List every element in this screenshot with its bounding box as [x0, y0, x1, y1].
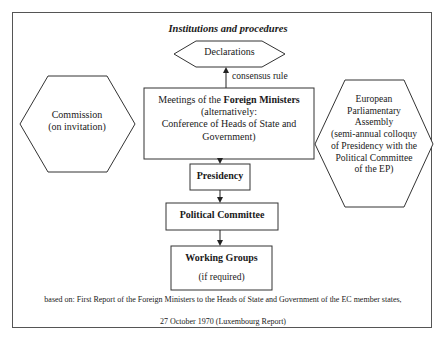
ep-line3: Assembly: [322, 116, 426, 128]
ep-line5: of Presidency with the: [322, 140, 426, 152]
meetings-label: Meetings of the Foreign Ministers (alter…: [146, 94, 312, 143]
ep-line6: Political Committee: [322, 152, 426, 164]
meetings-bold: Foreign Ministers: [224, 94, 300, 105]
ep-line7: of the EP): [322, 163, 426, 175]
source-line2: 27 October 1970 (Luxembourg Report): [16, 317, 430, 326]
commission-line2: (on invitation): [30, 121, 124, 133]
working-groups-sublabel: (if required): [171, 272, 272, 283]
commission-label: Commission (on invitation): [30, 109, 124, 133]
source-line1: based on: First Report of the Foreign Mi…: [16, 295, 430, 304]
ep-line1: European: [322, 93, 426, 105]
presidency-label: Presidency: [190, 170, 250, 182]
diagram-title: Institutions and procedures: [100, 23, 356, 35]
commission-line1: Commission: [30, 109, 124, 121]
meetings-line1: Meetings of the Foreign Ministers: [146, 94, 312, 106]
meetings-line4: Government): [146, 131, 312, 143]
consensus-rule-label: consensus rule: [232, 71, 312, 82]
declarations-label: Declarations: [174, 46, 285, 58]
meetings-line2: (alternatively:: [146, 106, 312, 118]
ep-line4: (semi-annual colloquy: [322, 128, 426, 140]
working-groups-label: Working Groups: [171, 252, 272, 264]
ep-line2: Parliamentary: [322, 105, 426, 117]
ep-label: European Parliamentary Assembly (semi-an…: [322, 93, 426, 175]
meetings-line3: Conference of Heads of State and: [146, 118, 312, 130]
political-committee-label: Political Committee: [166, 209, 278, 221]
meetings-prefix: Meetings of the: [158, 94, 223, 105]
